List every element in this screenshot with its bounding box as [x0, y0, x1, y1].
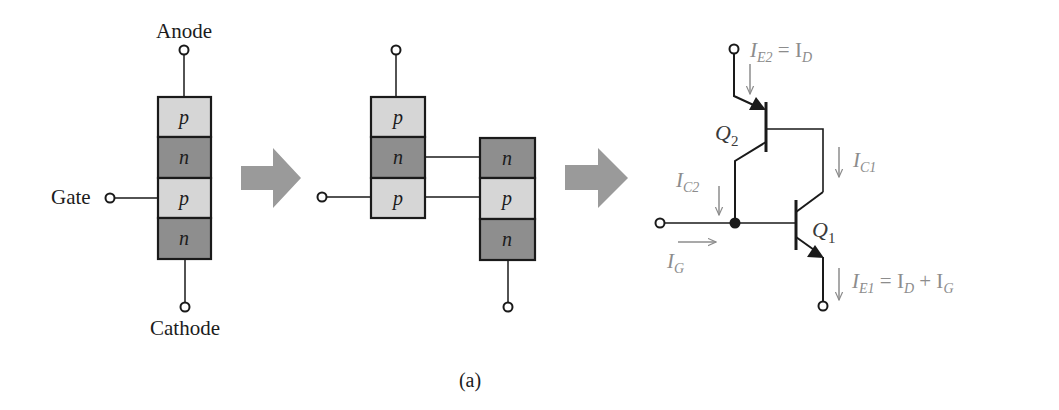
ic2-label: IC2	[675, 168, 699, 195]
cathode-label: Cathode	[150, 316, 220, 340]
q2-label: Q	[715, 120, 731, 145]
gate-label: Gate	[51, 185, 91, 209]
layer-label: n	[179, 227, 189, 249]
layer-label: p	[500, 187, 512, 210]
two-transistor-equivalent-circuit: Q 2 Q 1 IE2 = ID IC1 IC2 IG IE1 = ID + I…	[656, 38, 954, 311]
anode-terminal-icon	[180, 46, 189, 55]
layer-label: n	[179, 146, 189, 168]
top-terminal-icon	[392, 46, 401, 55]
q2-subscript: 2	[731, 133, 739, 149]
ie2-label: IE2 = ID	[749, 38, 812, 65]
split-two-transistor-structure: p n p n p n	[318, 46, 536, 312]
ic1-label: IC1	[852, 148, 876, 175]
layer-label: n	[502, 228, 512, 250]
cathode-terminal-icon	[819, 302, 828, 311]
anode-label: Anode	[156, 19, 212, 43]
right-arrow-icon	[241, 148, 301, 208]
layer-label: p	[177, 106, 189, 129]
layer-label: p	[391, 106, 403, 129]
ie1-label: IE1 = ID + IG	[851, 269, 954, 296]
layer-label: n	[502, 147, 512, 169]
q2-collector-wire	[735, 142, 766, 222]
bottom-terminal-icon	[504, 303, 513, 312]
q2-base-to-q1-collector-wire	[767, 129, 823, 192]
cathode-terminal-icon	[181, 303, 190, 312]
four-layer-structure: Anode p n p n Gate Cathode	[51, 19, 220, 340]
layer-label: p	[177, 187, 189, 210]
gate-terminal-icon	[106, 194, 115, 203]
figure-caption: (a)	[459, 369, 481, 392]
junction-node-icon	[730, 218, 741, 229]
q1-label: Q	[812, 217, 828, 242]
anode-terminal-icon	[730, 45, 739, 54]
q1-collector-wire	[796, 192, 823, 212]
right-arrow-icon	[565, 148, 628, 208]
gate-terminal-icon	[656, 219, 665, 228]
layer-label: n	[393, 146, 403, 168]
gate-terminal-icon	[318, 193, 327, 202]
layer-label: p	[391, 187, 403, 210]
thyristor-diagram: Anode p n p n Gate Cathode p n p n p	[0, 0, 1059, 410]
q1-subscript: 1	[828, 230, 836, 246]
ig-label: IG	[666, 249, 684, 276]
